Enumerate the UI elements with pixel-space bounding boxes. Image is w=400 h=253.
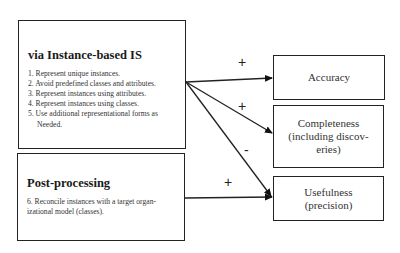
arrow-post-to-usefulness [185, 197, 272, 198]
sign-post-usefulness: + [224, 174, 232, 190]
sign-completeness: + [238, 98, 246, 114]
arrow-connectors [0, 0, 400, 253]
arrow-to-completeness [186, 82, 272, 133]
sign-accuracy: + [238, 54, 246, 70]
arrow-to-accuracy [186, 78, 272, 82]
sign-usefulness-negative: - [244, 142, 249, 158]
